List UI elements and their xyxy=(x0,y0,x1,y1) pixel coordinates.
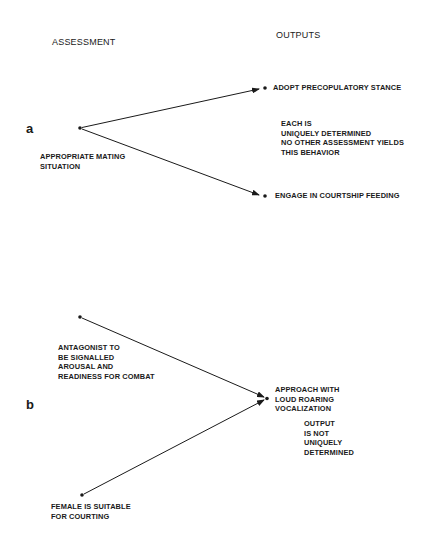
output-courtship-feeding: ENGAGE IN COURTSHIP FEEDING xyxy=(275,191,400,201)
arrow-to-precopulatory xyxy=(82,89,259,128)
output-precopulatory-stance: ADOPT PRECOPULATORY STANCE xyxy=(273,83,401,93)
panel-a-label: a xyxy=(26,121,33,136)
panel-b-note: OUTPUT IS NOT UNIQUELY DETERMINED xyxy=(304,419,354,457)
node-female xyxy=(80,493,84,497)
assessment-header: ASSESSMENT xyxy=(52,37,116,47)
node-antagonist xyxy=(78,315,82,319)
output-approach-roaring: APPROACH WITH LOUD ROARING VOCALIZATION xyxy=(275,385,340,414)
node-appropriate-mating xyxy=(78,126,82,130)
node-precopulatory xyxy=(263,86,267,90)
arrow-female-to-approach xyxy=(84,400,264,494)
diagram-arrows xyxy=(0,0,431,533)
node-courtship-feeding xyxy=(263,194,267,198)
panel-b-label: b xyxy=(26,397,34,412)
node-approach xyxy=(265,397,269,401)
panel-a-arrows xyxy=(78,86,267,198)
outputs-header: OUTPUTS xyxy=(276,30,320,40)
assessment-appropriate-mating: APPROPRIATE MATING SITUATION xyxy=(40,152,125,171)
panel-a-note: EACH IS UNIQUELY DETERMINED NO OTHER ASS… xyxy=(281,119,404,157)
assessment-female: FEMALE IS SUITABLE FOR COURTING xyxy=(51,502,131,521)
assessment-antagonist: ANTAGONIST TO BE SIGNALLED AROUSAL AND R… xyxy=(58,343,155,381)
